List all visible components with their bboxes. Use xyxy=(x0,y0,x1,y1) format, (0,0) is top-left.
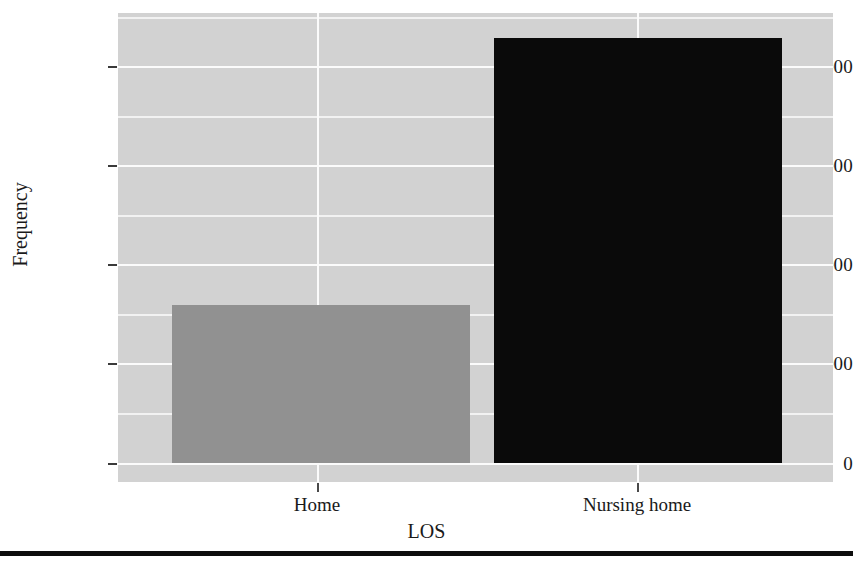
x-axis-label: LOS xyxy=(0,520,853,543)
ytick-mark-20000 xyxy=(108,66,117,68)
footer-rule xyxy=(0,551,853,556)
gridline-17500 xyxy=(118,17,833,19)
ytick-mark-0 xyxy=(108,463,117,465)
bar-home[interactable] xyxy=(172,305,470,463)
plot-area xyxy=(118,13,833,482)
y-axis-label: Frequency xyxy=(9,145,32,305)
ytick-mark-10000 xyxy=(108,264,117,266)
bar-nursing-home[interactable] xyxy=(494,38,782,463)
xtick-label-nursing-home: Nursing home xyxy=(517,495,757,515)
xtick-label-home: Home xyxy=(217,495,417,515)
gridline-0 xyxy=(118,463,833,465)
xtick-mark-home xyxy=(317,483,319,492)
ytick-mark-15000 xyxy=(108,165,117,167)
figure-container: 20000 15000 10000 5000 0 Frequency Home … xyxy=(0,0,853,570)
xtick-mark-nursing-home xyxy=(637,483,639,492)
ytick-mark-5000 xyxy=(108,363,117,365)
